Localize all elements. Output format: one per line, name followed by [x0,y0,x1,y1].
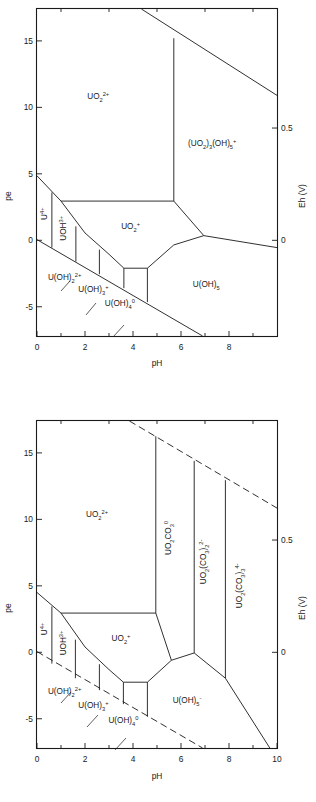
eh-tick-label-0.5: 0.5 [281,535,293,545]
boundary-reduced-species-upper-envelope [61,613,270,748]
boundaries-group-top [37,9,277,336]
y-tick-label-15: 15 [24,36,34,46]
species-label-UO2_3_OH_5_plus: (UO2)3(OH)5+ [188,138,237,150]
species-label-UOH_3plus: UOH3+ [58,215,68,240]
boundary-reduced-species-upper-envelope [61,201,277,268]
x-tick-label-10: 10 [272,754,282,764]
boundary-water-upper-oxidation-limit [141,9,277,95]
y-axis-title-bottom: pe [3,603,13,613]
x-tick-label-4: 4 [131,754,136,764]
pourbaix-diagram-top: 02468151050-50.50 UO22+UO2+(UO2)3(OH)5+U… [0,0,316,400]
y-tick-label--5: -5 [26,714,34,724]
species-label-UO2_2plus: UO22+ [86,509,109,521]
boundary-u4plus-upper-edge [37,592,61,613]
species-label-U_OH_3_plus: U(OH)3+ [78,284,109,296]
species-label-U_OH_4_0: U(OH)40 [108,715,138,727]
plot-frame-top [37,9,278,337]
species-label-U_4plus: U4+ [39,207,49,220]
species-label-U_OH_3_plus: U(OH)3+ [78,700,109,712]
species-label-UO2_2plus: UO22+ [87,91,110,103]
y-tick-label-10: 10 [24,514,34,524]
x-tick-label-0: 0 [35,342,40,352]
species-label-U_OH_4_0: U(OH)40 [105,298,135,310]
species-label-UO2CO3_0: UO2CO30 [163,521,175,555]
axes-group-bottom: 0246810151050-50.50 [24,421,293,764]
eh-tick-label-0.5: 0.5 [281,123,293,133]
species-label-UO2_plus: UO2+ [112,633,131,645]
species-label-UOH_3plus: UOH3+ [58,630,68,655]
figure-page: 02468151050-50.50 UO22+UO2+(UO2)3(OH)5+U… [0,0,316,802]
y-tick-label-0: 0 [28,235,33,245]
eh-tick-label-0: 0 [281,235,286,245]
y-tick-label-5: 5 [28,581,33,591]
species-label-U_OH_2_2plus: U(OH)22+ [48,686,82,698]
boundary-uo2-3oh5-to-u-oh-5-edge [174,201,204,236]
boundary-water-lower-reduction-limit [37,240,203,336]
x-tick-label-4: 4 [131,342,136,352]
chart-svg-bottom: 0246810151050-50.50 UO22+UO2CO30UO2(CO3)… [0,400,316,802]
pourbaix-diagram-bottom: 0246810151050-50.50 UO22+UO2CO30UO2(CO3)… [0,400,316,802]
eh-tick-label-0: 0 [281,647,286,657]
x-tick-label-6: 6 [179,342,184,352]
species-label-U_OH_5_minus: U(OH)5 [193,280,220,291]
y2-axis-title-bottom: Eh (V) [297,596,307,620]
y-tick-label-0: 0 [28,647,33,657]
x-tick-label-2: 2 [83,342,88,352]
y-axis-title-top: pe [3,191,13,201]
species-label-UO2_CO3_3_4minus: UO2(CO3)34- [234,563,246,608]
species-label-U_4plus: U4+ [39,622,49,635]
x-tick-label-6: 6 [179,754,184,764]
boundary-u4plus-upper-edge [37,176,61,201]
boundary-water-upper-oxidation-limit [129,421,277,508]
x-axis-title-top: pH [152,358,163,368]
axes-group-top: 02468151050-50.50 [24,9,293,352]
y-tick-label-10: 10 [24,102,34,112]
species-labels-group-bottom: UO22+UO2CO30UO2(CO3)22-UO2(CO3)34-UO2+U4… [39,509,246,728]
boundary-uo2co3-field-lower-edge [156,613,172,660]
x-tick-label-0: 0 [35,754,40,764]
chart-svg-top: 02468151050-50.50 UO22+UO2+(UO2)3(OH)5+U… [0,0,316,400]
species-label-UO2_plus: UO2+ [121,221,140,233]
x-tick-label-8: 8 [227,754,232,764]
species-label-U_OH_5_minus: U(OH)5- [173,695,202,707]
x-tick-label-2: 2 [83,754,88,764]
species-label-U_OH_2_2plus: U(OH)22+ [48,272,82,284]
y2-axis-title-top: Eh (V) [297,184,307,208]
x-tick-label-8: 8 [227,342,232,352]
species-label-UO2_CO3_2_2minus: UO2(CO3)22- [198,539,210,584]
x-axis-title-bottom: pH [152,771,163,781]
y-tick-label-5: 5 [28,169,33,179]
y-tick-label--5: -5 [26,302,34,312]
y-tick-label-15: 15 [24,448,34,458]
